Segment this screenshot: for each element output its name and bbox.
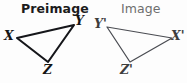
image-title: Image bbox=[121, 1, 161, 16]
geometry-diagram: Preimage Image X Y Z Y' X' Z' bbox=[0, 0, 187, 83]
vertex-label-x-prime: X' bbox=[171, 29, 185, 42]
vertex-label-z: Z bbox=[43, 63, 52, 76]
image-triangle-shape bbox=[107, 27, 172, 62]
vertex-label-x: X bbox=[4, 29, 14, 42]
vertex-label-z-prime: Z' bbox=[120, 63, 133, 76]
vertex-label-y-prime: Y' bbox=[94, 17, 107, 30]
vertex-label-y: Y bbox=[75, 14, 84, 27]
preimage-triangle-shape bbox=[17, 25, 74, 62]
